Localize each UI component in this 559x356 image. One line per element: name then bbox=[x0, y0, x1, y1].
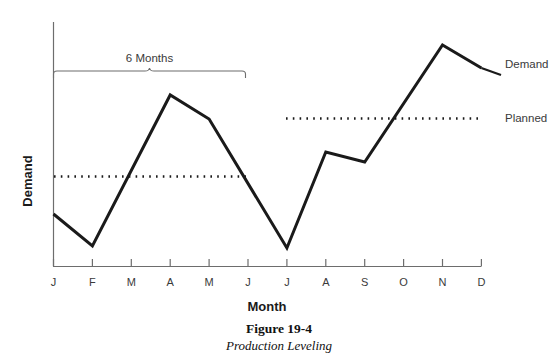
x-tick-label-may: M bbox=[205, 276, 214, 288]
x-tick-label-dec: D bbox=[477, 276, 485, 288]
demand-label-leader bbox=[481, 68, 501, 75]
x-tick-label-aug: A bbox=[322, 276, 330, 288]
six-months-span-label: 6 Months bbox=[126, 52, 174, 64]
planned-series-label: Planned bbox=[505, 112, 547, 124]
x-tick-label-jul: J bbox=[284, 276, 290, 288]
demand-series-line bbox=[54, 45, 482, 248]
x-axis-tick-labels: J F M A M J J A S O N D bbox=[51, 276, 486, 288]
figure-caption: Figure 19-4 Production Leveling bbox=[225, 321, 333, 353]
x-tick-label-sep: S bbox=[361, 276, 368, 288]
x-tick-label-apr: A bbox=[167, 276, 175, 288]
x-tick-label-feb: F bbox=[89, 276, 96, 288]
figure-container: J F M A M J J A S O N D Month Demand Dem… bbox=[0, 0, 559, 356]
x-tick-label-jan: J bbox=[51, 276, 57, 288]
figure-caption-title: Figure 19-4 bbox=[246, 321, 312, 336]
x-axis-title: Month bbox=[248, 299, 287, 314]
figure-caption-subtitle: Production Leveling bbox=[225, 338, 333, 353]
x-tick-label-nov: N bbox=[439, 276, 447, 288]
x-axis-tick-marks bbox=[54, 259, 482, 266]
x-tick-label-jun: J bbox=[245, 276, 251, 288]
chart-axes bbox=[53, 22, 482, 267]
x-tick-label-mar: M bbox=[127, 276, 136, 288]
y-axis-title: Demand bbox=[20, 155, 35, 206]
production-leveling-chart: J F M A M J J A S O N D Month Demand Dem… bbox=[0, 0, 559, 356]
x-tick-label-oct: O bbox=[399, 276, 408, 288]
six-months-span-bracket: 6 Months bbox=[54, 52, 246, 78]
demand-series-label: Demand bbox=[505, 58, 548, 70]
